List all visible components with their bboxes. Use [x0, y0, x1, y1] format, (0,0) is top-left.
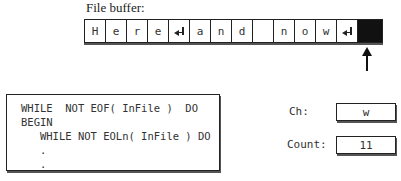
- count-value-box: 11: [336, 136, 396, 154]
- buffer-cell: n: [211, 20, 232, 42]
- buffer-cell: o: [295, 20, 316, 42]
- buffer-pointer-arrow-icon: [362, 47, 372, 71]
- code-box: WHILE NOT EOF( InFile ) DO BEGIN WHILE N…: [6, 94, 220, 171]
- buffer-cell-eoln: [169, 20, 190, 42]
- return-icon: [342, 27, 353, 36]
- ch-value-box: w: [336, 103, 396, 121]
- count-label: Count:: [287, 138, 327, 151]
- code-line: BEGIN: [21, 115, 219, 129]
- code-line: .: [21, 143, 219, 157]
- buffer-cell-space: [253, 20, 274, 42]
- buffer-cell: H: [85, 20, 106, 42]
- buffer-cell: a: [190, 20, 211, 42]
- buffer-cell: d: [232, 20, 253, 42]
- buffer-cell: r: [127, 20, 148, 42]
- code-line: WHILE NOT EOF( InFile ) DO: [21, 101, 219, 115]
- return-icon: [174, 27, 185, 36]
- code-line: .: [21, 157, 219, 171]
- buffer-cell: e: [106, 20, 127, 42]
- ch-label: Ch:: [289, 105, 309, 118]
- file-buffer: H e r e a n d n o w: [84, 19, 383, 43]
- code-line: WHILE NOT EOLn( InFile ) DO: [21, 129, 219, 143]
- buffer-cell-eoln: [337, 20, 358, 42]
- buffer-cell: w: [316, 20, 337, 42]
- buffer-cell-eof: [358, 20, 382, 42]
- file-buffer-label: File buffer:: [86, 0, 145, 16]
- buffer-cell: e: [148, 20, 169, 42]
- buffer-cell: n: [274, 20, 295, 42]
